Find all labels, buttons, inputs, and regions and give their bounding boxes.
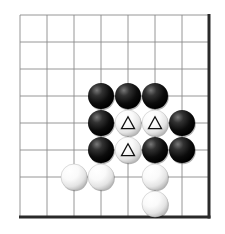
goban-grid	[0, 0, 225, 234]
stone-body	[88, 110, 114, 136]
black-stone[interactable]	[115, 83, 142, 110]
black-stone[interactable]	[142, 83, 169, 110]
white-stone[interactable]	[88, 164, 115, 191]
stone-body	[115, 83, 141, 109]
black-stone[interactable]	[88, 110, 115, 137]
black-stone[interactable]	[88, 137, 115, 164]
black-stone[interactable]	[169, 110, 196, 137]
black-stone[interactable]	[88, 83, 115, 110]
white-stone[interactable]	[115, 110, 142, 137]
white-stone[interactable]	[115, 137, 142, 164]
stone-body	[115, 110, 141, 136]
stone-body	[142, 191, 168, 217]
stone-body	[142, 110, 168, 136]
white-stone[interactable]	[142, 191, 169, 218]
stone-body	[142, 164, 168, 190]
stone-body	[88, 164, 114, 190]
stone-body	[169, 137, 195, 163]
black-stone[interactable]	[169, 137, 196, 164]
white-stone[interactable]	[61, 164, 88, 191]
stone-body	[115, 137, 141, 163]
black-stone[interactable]	[142, 137, 169, 164]
stone-body	[142, 137, 168, 163]
stone-body	[142, 83, 168, 109]
go-board-diagram	[0, 0, 225, 234]
white-stone[interactable]	[142, 110, 169, 137]
stone-body	[61, 164, 87, 190]
stone-body	[88, 83, 114, 109]
stone-body	[88, 137, 114, 163]
stone-body	[169, 110, 195, 136]
white-stone[interactable]	[142, 164, 169, 191]
